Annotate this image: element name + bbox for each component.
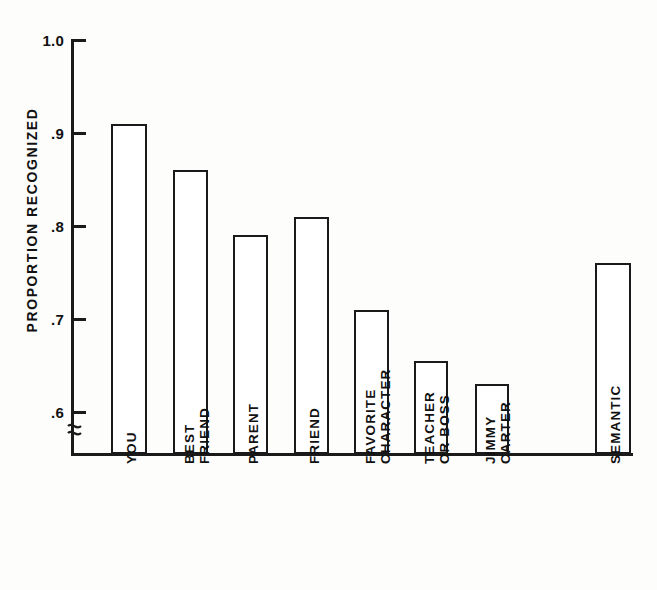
category-label-line: FAVORITE (363, 369, 378, 464)
y-tick-label: .7 (18, 311, 64, 327)
category-label: FRIEND (307, 407, 322, 464)
y-tick-label-text: 1.0 (43, 32, 64, 49)
category-label-line: BEST (182, 407, 197, 464)
y-tick-label-text: .9 (51, 125, 64, 142)
y-tick-p7 (74, 318, 86, 321)
category-label: FAVORITECHARACTER (363, 369, 393, 464)
y-tick-label: .8 (18, 218, 64, 234)
category-label: TEACHEROR BOSS (422, 391, 452, 464)
category-label-line: CARTER (498, 401, 513, 464)
y-tick-p6 (74, 411, 86, 414)
category-label-line: FRIEND (307, 407, 322, 464)
y-tick-label: .9 (18, 125, 64, 141)
category-label-line: SEMANTIC (608, 385, 623, 464)
category-label-line: CHARACTER (378, 369, 393, 464)
category-label: SEMANTIC (608, 385, 623, 464)
axis-break-icon (64, 421, 84, 439)
y-tick-label: .6 (18, 404, 64, 420)
category-label-line: TEACHER (422, 391, 437, 464)
bar-chart-figure: PROPORTION RECOGNIZED 1.0.9.8.7.6 YOUBES… (0, 0, 657, 590)
category-label-line: OR BOSS (437, 391, 452, 464)
y-axis-line (71, 39, 74, 456)
y-tick-label-text: .7 (51, 311, 64, 328)
y-tick-p9 (74, 132, 86, 135)
category-label-line: PARENT (246, 403, 261, 464)
category-label: PARENT (246, 403, 261, 464)
y-tick-label-text: .8 (51, 218, 64, 235)
category-label-line: FRIEND (197, 407, 212, 464)
category-label: JIMMYCARTER (483, 401, 513, 464)
y-tick-p8 (74, 225, 86, 228)
category-label-line: JIMMY (483, 401, 498, 464)
category-label-line: YOU (124, 431, 139, 464)
category-label: YOU (124, 431, 139, 464)
y-tick-label: 1.0 (18, 32, 64, 48)
category-label: BESTFRIEND (182, 407, 212, 464)
y-tick-1p0 (74, 39, 86, 42)
x-axis-line (71, 453, 633, 456)
bar (111, 124, 147, 454)
y-tick-label-text: .6 (51, 404, 64, 421)
